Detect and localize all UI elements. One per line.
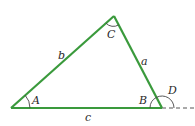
triangle-diagram: A B C D a b c	[0, 0, 195, 126]
side-a	[114, 16, 162, 108]
label-angle-C: C	[107, 28, 116, 41]
label-angle-B: B	[138, 94, 147, 107]
angle-arc-A	[25, 95, 30, 108]
label-side-c: c	[85, 111, 91, 124]
label-angle-A: A	[31, 94, 40, 107]
angle-arc-B	[150, 97, 156, 108]
label-angle-D: D	[167, 84, 177, 97]
label-side-a: a	[141, 55, 148, 68]
label-side-b: b	[58, 49, 65, 62]
side-b	[11, 16, 114, 108]
angle-arc-C	[106, 23, 119, 26]
